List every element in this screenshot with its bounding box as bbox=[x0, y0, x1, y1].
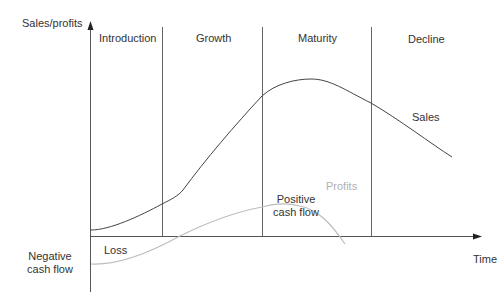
stage-label-growth: Growth bbox=[196, 32, 231, 45]
sales-curve-label: Sales bbox=[412, 111, 440, 124]
negative-cash-flow-line2: cash flow bbox=[22, 263, 78, 276]
negative-cash-flow-line1: Negative bbox=[22, 250, 78, 263]
profits-curve-label: Profits bbox=[326, 180, 357, 193]
y-axis-arrow-icon bbox=[88, 21, 94, 30]
stage-label-introduction: Introduction bbox=[99, 32, 156, 45]
negative-cash-flow-label: Negative cash flow bbox=[22, 250, 78, 276]
stage-label-decline: Decline bbox=[408, 33, 445, 46]
product-life-cycle-diagram: Sales/profits Time Introduction Growth M… bbox=[0, 0, 504, 305]
loss-label: Loss bbox=[104, 244, 127, 257]
positive-cash-flow-label: Positive cash flow bbox=[266, 193, 326, 219]
positive-cash-flow-line2: cash flow bbox=[266, 206, 326, 219]
x-axis-arrow-icon bbox=[473, 234, 482, 240]
x-axis-label: Time bbox=[473, 253, 497, 266]
y-axis-label: Sales/profits bbox=[22, 17, 83, 30]
positive-cash-flow-line1: Positive bbox=[266, 193, 326, 206]
stage-label-maturity: Maturity bbox=[298, 32, 337, 45]
